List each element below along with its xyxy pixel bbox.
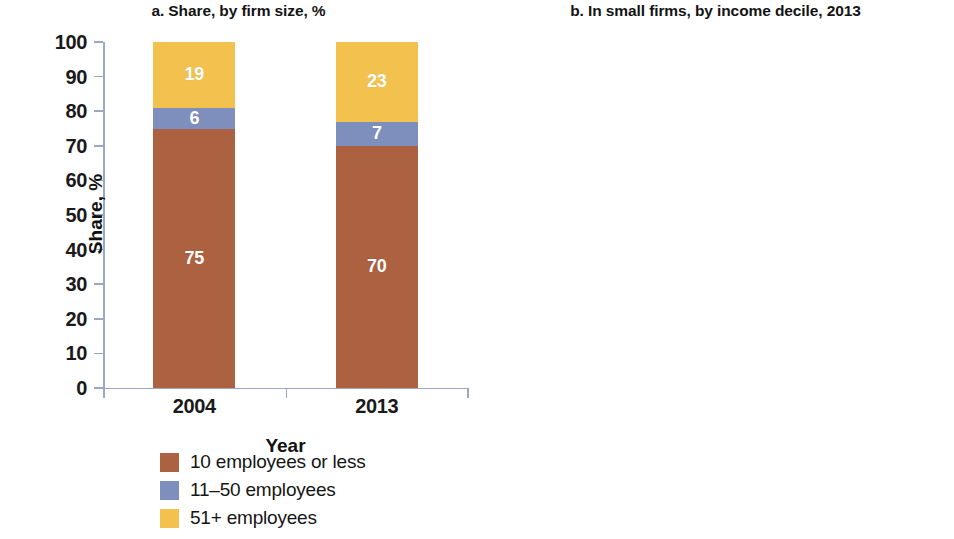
panel-a-stacked-bar: 70723 (336, 42, 418, 388)
panel-a-x-tick (103, 388, 105, 398)
panel-a-y-tick-label: 20 (66, 307, 87, 330)
panel-a-bar-segment: 6 (153, 108, 235, 129)
panel-a-x-tick (286, 388, 288, 398)
panel-a-bar-segment-label: 75 (185, 248, 204, 269)
panel-a-y-tick-label: 60 (66, 169, 87, 192)
panel-a-bar-segment-label: 70 (367, 256, 386, 277)
panel-a-y-tick-label: 0 (76, 377, 87, 400)
panel-a-y-tick: 20 (94, 318, 103, 320)
legend-item-label: 11–50 employees (190, 479, 336, 501)
panel-a-share-by-firm-size: a. Share, by firm size, % 01020304050607… (0, 0, 477, 539)
panel-a-y-tick-label: 30 (66, 273, 87, 296)
panel-a-x-tick (467, 388, 469, 398)
panel-a-bar-segment-label: 23 (367, 71, 386, 92)
panel-a-y-tick: 90 (94, 76, 103, 78)
panel-a-bar-segment: 23 (336, 42, 418, 122)
panel-a-bar-segment: 7 (336, 122, 418, 146)
panel-a-y-tick-label: 50 (66, 204, 87, 227)
figure-two-panel-bar-charts: a. Share, by firm size, % 01020304050607… (0, 0, 954, 539)
panel-a-bar-segment-label: 6 (189, 108, 199, 129)
legend-swatch-icon (160, 453, 179, 472)
panel-a-y-tick-label: 80 (66, 100, 87, 123)
panel-a-y-tick-label: 40 (66, 238, 87, 261)
legend: 10 employees or less11–50 employees51+ e… (160, 448, 366, 532)
legend-item: 10 employees or less (160, 448, 366, 476)
panel-a-bar-segment: 75 (153, 129, 235, 389)
panel-a-title: a. Share, by firm size, % (0, 2, 477, 20)
panel-a-y-axis-title: Share, % (85, 129, 107, 299)
panel-a-y-tick: 100 (94, 41, 103, 43)
panel-a-x-tick-label: 2013 (355, 395, 398, 418)
panel-a-bar-segment: 19 (153, 42, 235, 108)
legend-swatch-icon (160, 509, 179, 528)
panel-a-y-tick: 80 (94, 110, 103, 112)
panel-a-y-tick-label: 10 (66, 342, 87, 365)
panel-a-bar-segment: 70 (336, 146, 418, 388)
panel-a-y-tick-label: 90 (66, 65, 87, 88)
legend-item-label: 51+ employees (190, 507, 317, 529)
panel-b-title: b. In small firms, by income decile, 201… (477, 2, 954, 20)
panel-b-small-firms-by-income-decile: b. In small firms, by income decile, 201… (477, 0, 954, 539)
panel-a-stacked-bar: 75619 (153, 42, 235, 388)
legend-item: 51+ employees (160, 504, 366, 532)
panel-a-bar-segment-label: 7 (372, 123, 382, 144)
legend-item-label: 10 employees or less (190, 451, 366, 473)
panel-a-y-tick-label: 70 (66, 134, 87, 157)
panel-a-x-tick-label: 2004 (173, 395, 216, 418)
panel-a-y-tick: 0 (94, 387, 103, 389)
legend-swatch-icon (160, 481, 179, 500)
panel-a-y-tick-label: 100 (55, 31, 87, 54)
panel-a-bar-segment-label: 19 (185, 64, 204, 85)
panel-a-y-tick: 10 (94, 353, 103, 355)
legend-item: 11–50 employees (160, 476, 366, 504)
panel-a-plot-area: 0102030405060708090100 20042013 75619707… (103, 42, 468, 388)
